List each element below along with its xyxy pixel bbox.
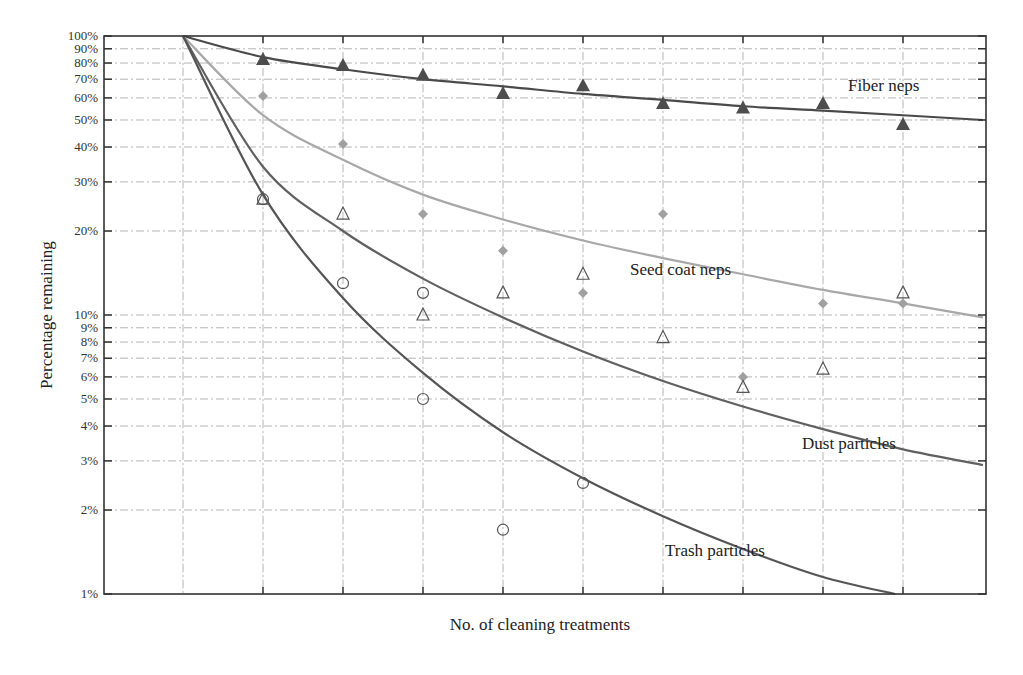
marker-seed-coat-neps [578,288,588,298]
y-tick-label: 9% [81,320,99,335]
y-tick-label: 40% [74,139,98,154]
marker-seed-coat-neps [898,298,908,308]
marker-fiber-neps [336,58,350,71]
label-fiber-neps: Fiber neps [848,76,919,95]
marker-seed-coat-neps [258,91,268,101]
y-tick-label: 8% [81,334,99,349]
y-tick-labels: 100%90%80%70%60%50%40%30%20%10%9%8%7%6%5… [68,28,99,601]
grid-lines [104,36,986,594]
marker-seed-coat-neps [818,298,828,308]
data-points [256,52,910,535]
y-tick-label: 7% [81,350,99,365]
y-tick-label: 1% [81,586,99,601]
marker-seed-coat-neps [658,209,668,219]
y-tick-label: 6% [81,369,99,384]
y-tick-label: 2% [81,502,99,517]
y-axis-title: Percentage remaining [37,241,56,389]
y-tick-label: 5% [81,391,99,406]
marker-fiber-neps [896,117,910,130]
marker-seed-coat-neps [338,139,348,149]
y-tick-label: 30% [74,174,98,189]
y-tick-label: 20% [74,223,98,238]
x-axis-title: No. of cleaning treatments [450,615,630,634]
y-tick-label: 3% [81,453,99,468]
y-tick-label: 70% [74,71,98,86]
label-dust-particles: Dust particles [802,434,896,453]
marker-fiber-neps [416,68,430,81]
y-tick-label: 60% [74,90,98,105]
y-tick-label: 90% [74,41,98,56]
marker-seed-coat-neps [418,209,428,219]
label-trash-particles: Trash particles [665,541,765,560]
label-seed-coat-neps: Seed coat neps [630,260,731,279]
y-tick-label: 4% [81,418,99,433]
marker-fiber-neps [576,78,590,91]
y-tick-label: 50% [74,112,98,127]
marker-seed-coat-neps [498,246,508,256]
chart: 100%90%80%70%60%50%40%30%20%10%9%8%7%6%5… [0,0,1023,675]
y-tick-label: 80% [74,55,98,70]
